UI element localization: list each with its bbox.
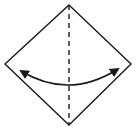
paper-square-diamond [5, 5, 131, 125]
origami-diagram [0, 0, 136, 130]
